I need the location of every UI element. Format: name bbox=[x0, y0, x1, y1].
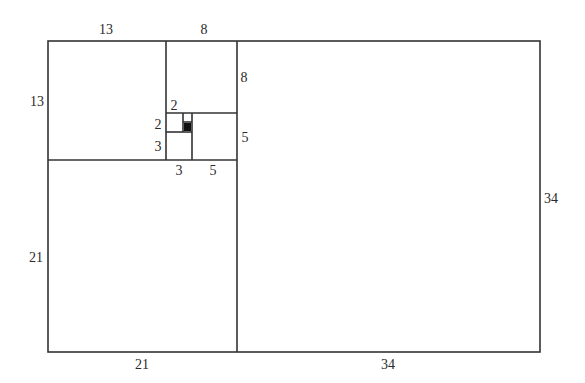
label-inner-3-left: 3 bbox=[155, 139, 162, 154]
label-bottom-34: 34 bbox=[381, 357, 395, 372]
label-left-21: 21 bbox=[29, 250, 43, 265]
label-right-8: 8 bbox=[241, 70, 248, 85]
label-top-8: 8 bbox=[201, 22, 208, 37]
label-inner-2-left: 2 bbox=[155, 117, 162, 132]
label-inner-5-bottom: 5 bbox=[210, 163, 217, 178]
filled-unit-square bbox=[184, 123, 191, 131]
label-left-13: 13 bbox=[30, 94, 44, 109]
label-top-13: 13 bbox=[99, 22, 113, 37]
label-right-5: 5 bbox=[242, 130, 249, 145]
label-bottom-21: 21 bbox=[135, 357, 149, 372]
label-right-34: 34 bbox=[544, 191, 558, 206]
label-inner-2-top: 2 bbox=[171, 98, 178, 113]
label-inner-3-bottom: 3 bbox=[176, 163, 183, 178]
outer-rectangle bbox=[48, 41, 540, 352]
fibonacci-diagram: 13 8 13 21 8 5 2 2 3 3 5 21 34 34 bbox=[0, 0, 585, 383]
